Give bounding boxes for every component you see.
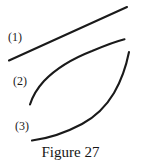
curve-label-1: (1)	[8, 31, 22, 44]
figure-27-diagram: (1) (2) (3) Figure 27	[0, 0, 141, 165]
curve-3-path	[32, 52, 129, 141]
curve-1-path	[9, 7, 127, 61]
curve-label-2: (2)	[13, 75, 27, 88]
curve-2-path	[30, 39, 125, 104]
curve-label-3: (3)	[15, 120, 29, 133]
figure-caption: Figure 27	[0, 143, 141, 161]
